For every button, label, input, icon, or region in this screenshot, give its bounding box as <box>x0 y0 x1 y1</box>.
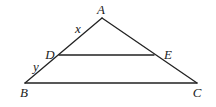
segment-label-x: x <box>74 21 81 36</box>
segment-label-y: y <box>31 59 39 74</box>
vertex-label-b: B <box>20 85 28 100</box>
triangle-diagram: A B C D E x y <box>0 0 216 107</box>
point-label-e: E <box>163 47 172 62</box>
vertex-label-a: A <box>96 2 105 17</box>
point-label-d: D <box>44 47 55 62</box>
vertex-label-c: C <box>193 85 202 100</box>
segment-ac <box>102 18 197 83</box>
